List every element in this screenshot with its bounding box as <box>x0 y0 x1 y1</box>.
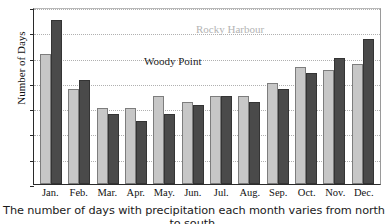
bar-group <box>210 9 232 184</box>
bar-group <box>182 9 204 184</box>
bar <box>51 20 62 184</box>
x-axis-labels: Jan.Feb.Mar.Apr.May.Jun.Jul.Aug.Sep.Oct.… <box>33 187 381 201</box>
bar <box>125 108 136 184</box>
x-axis-tick-label: Apr. <box>122 187 151 201</box>
bar <box>97 108 108 184</box>
bar <box>40 54 51 184</box>
bar <box>221 96 232 185</box>
x-axis-tick-label: Oct. <box>293 187 322 201</box>
bar <box>68 89 79 184</box>
x-axis-tick-label: Mar. <box>93 187 122 201</box>
bar-group <box>125 9 147 184</box>
bar <box>363 39 374 184</box>
x-axis-tick-label: Sep. <box>264 187 293 201</box>
bar <box>278 89 289 184</box>
bar-group <box>97 9 119 184</box>
bar-group <box>352 9 374 184</box>
bar <box>323 70 334 184</box>
bar <box>306 73 317 184</box>
bar <box>153 96 164 185</box>
bar-group <box>68 9 90 184</box>
plot-area: 0481216202428 Rocky Harbour Woody Point <box>33 8 381 185</box>
bar-group <box>153 9 175 184</box>
bar-group <box>40 9 62 184</box>
x-axis-tick-label: Dec. <box>350 187 379 201</box>
bar <box>267 83 278 184</box>
bar-group <box>295 9 317 184</box>
x-axis-tick-label: Feb. <box>65 187 94 201</box>
precipitation-bar-chart: Number of Days 0481216202428 Rocky Harbo… <box>0 0 388 224</box>
x-axis-tick-label: Aug. <box>236 187 265 201</box>
x-axis-tick-label: Jun. <box>179 187 208 201</box>
series-label-woody-point: Woody Point <box>144 55 201 67</box>
y-axis-title: Number of Days <box>15 13 27 123</box>
bar <box>193 105 204 184</box>
bar-group <box>323 9 345 184</box>
figure-caption: The number of days with precipitation ea… <box>0 204 388 224</box>
bar <box>334 58 345 184</box>
x-axis-tick-label: Jan. <box>36 187 65 201</box>
bar <box>164 114 175 184</box>
bar <box>295 67 306 184</box>
bar <box>108 114 119 184</box>
bars-layer <box>34 9 380 184</box>
x-axis-tick-label: Nov. <box>321 187 350 201</box>
bar <box>79 80 90 184</box>
x-axis-tick-label: May. <box>150 187 179 201</box>
bar-group <box>267 9 289 184</box>
bar <box>352 64 363 184</box>
x-axis-tick-label: Jul. <box>207 187 236 201</box>
series-label-rocky-harbour: Rocky Harbour <box>196 23 264 35</box>
bar <box>238 96 249 185</box>
bar <box>210 96 221 185</box>
bar <box>182 102 193 184</box>
bar <box>249 102 260 184</box>
bar <box>136 121 147 184</box>
bar-group <box>238 9 260 184</box>
